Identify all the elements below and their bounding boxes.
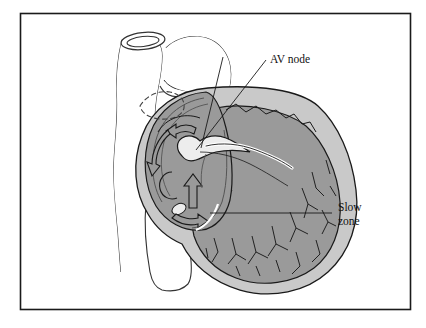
label-av-node: AV node — [270, 53, 310, 65]
figure-root: AV node Slow zone — [0, 0, 426, 328]
heart-diagram: AV node Slow zone — [0, 0, 426, 328]
label-slow-zone-line1: Slow — [338, 201, 362, 213]
label-slow-zone-line2: zone — [338, 215, 360, 227]
